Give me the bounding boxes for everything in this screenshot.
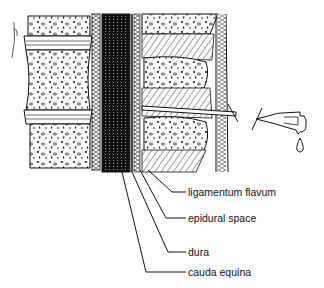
label-ligamentum-flavum: ligamentum flavum [188, 187, 276, 198]
artist-signature [12, 22, 17, 58]
posterior-ligament [92, 14, 100, 170]
label-epidural-space: epidural space [188, 213, 256, 224]
epidural-space-region [134, 14, 140, 172]
drop-icon [297, 138, 303, 152]
posterior-elements [142, 14, 228, 172]
needle-hub [252, 108, 306, 152]
label-dura: dura [188, 247, 209, 258]
cauda-equina-region [102, 14, 130, 172]
leader-lines [122, 170, 186, 272]
vertebral-bodies [24, 16, 92, 168]
label-cauda-equina: cauda equina [188, 267, 251, 278]
epidural-anatomy-illustration [0, 0, 324, 288]
